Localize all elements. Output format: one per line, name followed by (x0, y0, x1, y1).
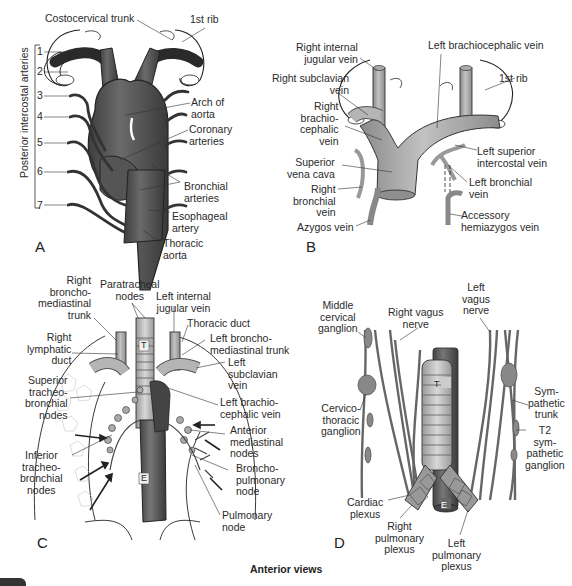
label-c-left-internal-jugular-vein: Left internal jugular vein (156, 291, 211, 314)
intercostal-number-7: 7 (37, 200, 43, 212)
page-corner-tab (0, 578, 26, 586)
label-left-pulmonary-plexus: Left pulmonary plexus (432, 538, 481, 573)
figure-caption: Anterior views (250, 563, 322, 575)
label-bronchial-arteries: Bronchial arteries (184, 181, 228, 204)
label-right-internal-jugular-vein: Right internal jugular vein (296, 42, 358, 65)
label-superior-vena-cava: Superior vena cava (287, 157, 335, 180)
label-left-vagus-nerve: Left vagus nerve (462, 282, 490, 317)
intercostal-number-1: 1 (37, 46, 43, 58)
trachea-marker-d: T (434, 379, 440, 391)
label-right-brachiocephalic-vein: Right brachio- cephalic vein (300, 101, 339, 147)
label-bronchopulmonary-node: Broncho- pulmonary node (236, 463, 285, 498)
intercostal-number-3: 3 (37, 90, 43, 102)
label-c-left-brachiocephalic-vein: Left brachio- cephalic vein (220, 397, 281, 420)
label-right-pulmonary-plexus: Right pulmonary plexus (375, 521, 424, 556)
label-right-vagus-nerve: Right vagus nerve (388, 307, 443, 330)
label-arch-of-aorta: Arch of aorta (191, 97, 224, 120)
label-left-brachiocephalic-vein: Left brachiocephalic vein (428, 40, 544, 52)
panel-letter-b: B (306, 238, 316, 255)
label-thoracic-duct: Thoracic duct (187, 318, 250, 330)
label-azygos-vein: Azygos vein (297, 222, 354, 234)
esophagus-marker-d: E (441, 500, 447, 512)
label-pulmonary-node: Pulmonary node (222, 510, 272, 533)
label-right-bronchomediastinal-trunk: Right broncho- mediastinal trunk (38, 275, 91, 321)
label-coronary-arteries: Coronary arteries (189, 124, 232, 147)
panel-b-drawing (338, 54, 515, 226)
panel-letter-d: D (334, 534, 345, 551)
intercostal-number-2: 2 (37, 66, 43, 78)
label-right-lymphatic-duct: Right lymphatic duct (27, 332, 71, 367)
label-t2-sympathetic-ganglion: T2 sym- pathetic ganglion (525, 425, 565, 471)
panel-letter-c: C (37, 534, 48, 551)
label-left-bronchomediastinal-trunk: Left broncho- mediastinal trunk (210, 333, 289, 356)
label-right-bronchial-vein: Right bronchial vein (293, 184, 336, 219)
label-thoracic-aorta: Thoracic aorta (163, 238, 203, 261)
label-middle-cervical-ganglion: Middle cervical ganglion (318, 300, 358, 335)
label-sympathetic-trunk: Sym- pathetic trunk (528, 386, 565, 421)
panel-letter-a: A (35, 238, 45, 255)
label-left-subclavian-vein: Left subclavian vein (228, 357, 278, 392)
label-right-subclavian-vein: Right subclavian vein (272, 73, 349, 96)
posterior-intercostal-arteries-label: Posterior intercostal arteries (18, 47, 30, 178)
label-paratracheal-nodes: Paratracheal nodes (100, 279, 160, 302)
label-a-1st-rib: 1st rib (190, 14, 219, 26)
intercostal-number-6: 6 (37, 166, 43, 178)
label-cardiac-plexus: Cardiac plexus (347, 497, 383, 520)
intercostal-number-5: 5 (37, 137, 43, 149)
label-b-1st-rib: 1st rib (499, 73, 528, 85)
intercostal-number-4: 4 (37, 111, 43, 123)
label-esophageal-artery: Esophageal artery (172, 211, 227, 234)
label-accessory-hemiazygos-vein: Accessory hemiazygos vein (461, 210, 539, 233)
label-left-bronchial-vein: Left bronchial vein (469, 177, 532, 200)
label-anterior-mediastinal-nodes: Anterior mediastinal nodes (230, 425, 283, 460)
label-left-superior-intercostal-vein: Left superior intercostal vein (477, 146, 547, 169)
label-superior-tracheobronchial-nodes: Superior tracheo- bronchial nodes (25, 375, 68, 421)
label-cervicothoracic-ganglion: Cervico- thoracic ganglion (321, 403, 361, 438)
label-inferior-tracheobronchial-nodes: Inferior tracheo- bronchial nodes (20, 450, 63, 496)
esophagus-marker-c: E (141, 473, 147, 485)
label-costocervical-trunk: Costocervical trunk (45, 13, 134, 25)
trachea-marker-c: T (141, 340, 147, 352)
